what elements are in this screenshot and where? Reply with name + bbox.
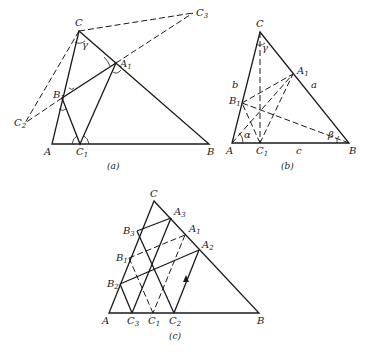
label-a: A [101, 315, 109, 326]
label-b1: B1 [115, 252, 128, 265]
line-b1-a1 [242, 74, 293, 103]
line-a1-c3 [116, 13, 193, 63]
figure-c: C A3 A1 A2 B3 B1 B2 A C3 C1 C2 B (c) [101, 188, 264, 341]
label-b2: B2 [106, 278, 119, 291]
label-a2: A2 [201, 239, 214, 252]
label-side-b: b [232, 79, 238, 90]
line-c-c3 [79, 13, 193, 31]
label-side-a: a [311, 79, 317, 90]
label-beta: β [327, 129, 334, 140]
label-c1: C1 [148, 315, 160, 328]
label-c3: C3 [127, 315, 140, 328]
seg-c2-b3 [137, 231, 174, 313]
label-b: B [348, 145, 356, 156]
label-c: C [75, 17, 83, 28]
label-gamma: γ [82, 39, 88, 50]
line-b1-c2 [25, 98, 62, 123]
label-a: A [43, 146, 51, 157]
label-c1: C1 [76, 146, 88, 159]
label-side-c: c [296, 145, 302, 156]
angle-mark-a1-left [104, 57, 110, 66]
label-b1: B1 [228, 95, 241, 108]
label-b: B [256, 315, 264, 326]
label-a1: A1 [188, 223, 201, 236]
figure-b: C γ A1 b a B1 α β A C1 c B (b) [225, 18, 356, 171]
label-c1: C1 [256, 145, 268, 158]
label-a1: A1 [296, 65, 309, 78]
triangle-abc-b [232, 32, 349, 143]
caption-a: (a) [107, 161, 120, 171]
angle-mark-a1-bottom [113, 70, 121, 73]
label-a: A [225, 145, 233, 156]
figure-a: C γ C3 A1 B1 C2 A C1 B (a) [14, 7, 214, 171]
line-c1-a1 [260, 74, 293, 143]
label-b: B [206, 146, 214, 157]
label-c2: C2 [14, 117, 27, 130]
angle-mark-c1-left [72, 136, 77, 144]
label-b3: B3 [122, 225, 135, 238]
geometry-figure: C γ C3 A1 B1 C2 A C1 B (a) C γ A1 b a B1… [0, 0, 370, 352]
angle-mark-c1-right [84, 136, 89, 144]
label-c3: C3 [196, 7, 209, 20]
caption-b: (b) [281, 161, 294, 171]
angle-mark-b1-top [69, 88, 74, 90]
label-c: C [256, 18, 264, 29]
seg-c1-b1 [129, 258, 153, 313]
label-alpha: α [244, 129, 251, 140]
triangle-a1b1c1-a [62, 63, 116, 144]
label-gamma: γ [262, 42, 268, 53]
seg-c3-b2 [120, 284, 132, 313]
label-c: C [150, 188, 158, 199]
label-a3: A3 [173, 206, 186, 219]
label-c2: C2 [169, 315, 182, 328]
label-a1: A1 [119, 58, 132, 71]
triangle-abc-a [52, 31, 209, 144]
caption-c: (c) [169, 331, 182, 341]
line-c-c2 [25, 31, 79, 123]
